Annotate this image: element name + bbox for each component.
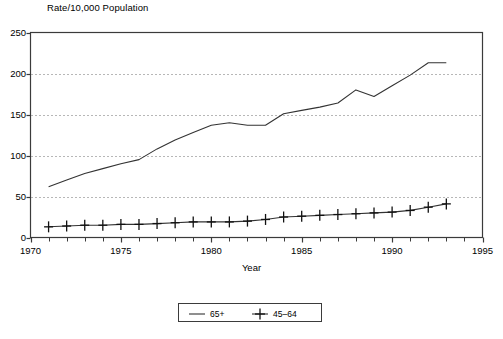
data-point-marker [225, 216, 234, 227]
data-point-marker [116, 219, 125, 230]
data-point-marker [424, 202, 433, 213]
data-point-marker [297, 211, 306, 222]
x-tick-label: 1985 [282, 245, 322, 256]
data-point-marker [315, 210, 324, 221]
data-point-marker [406, 205, 415, 216]
x-tick-label: 1975 [101, 245, 141, 256]
legend-line-plus-icon [251, 307, 269, 321]
data-point-marker [442, 198, 451, 209]
legend-label: 65+ [210, 309, 224, 319]
data-point-marker [333, 209, 342, 220]
data-point-marker [153, 218, 162, 229]
data-point-marker [207, 216, 216, 227]
data-point-marker [44, 221, 53, 232]
chart-container: Rate/10,000 Population 050100150200250 1… [0, 0, 503, 339]
plot-frame [31, 33, 483, 238]
data-point-marker [189, 216, 198, 227]
data-point-marker [80, 220, 89, 231]
chart-plot-area [0, 0, 503, 339]
legend-line-icon [188, 307, 206, 321]
data-point-marker [261, 214, 270, 225]
data-point-marker [279, 212, 288, 223]
data-point-marker [388, 207, 397, 218]
y-tick-label: 50 [0, 191, 26, 202]
y-tick-label: 200 [0, 68, 26, 79]
data-point-marker [243, 216, 252, 227]
data-point-marker [171, 217, 180, 228]
chart-legend: 65+ 45–64 [178, 303, 322, 322]
x-tick-label: 1980 [191, 245, 231, 256]
data-point-marker [351, 208, 360, 219]
x-tick-label: 1990 [372, 245, 412, 256]
y-tick-label: 0 [0, 232, 26, 243]
data-point-marker [370, 207, 379, 218]
legend-item-65-plus[interactable]: 65+ [188, 304, 224, 323]
x-tick-label: 1970 [11, 245, 51, 256]
series-line-0 [49, 63, 447, 187]
y-tick-label: 100 [0, 150, 26, 161]
legend-item-45-64[interactable]: 45–64 [251, 304, 297, 323]
x-tick-label: 1995 [463, 245, 503, 256]
y-tick-label: 250 [0, 27, 26, 38]
legend-label: 45–64 [273, 309, 297, 319]
data-series-layer [44, 63, 451, 233]
data-point-marker [62, 221, 71, 232]
gridlines [32, 75, 482, 198]
x-axis-title: Year [0, 262, 503, 273]
data-point-marker [98, 220, 107, 231]
y-tick-label: 150 [0, 109, 26, 120]
x-axis-ticks [32, 238, 484, 243]
data-point-marker [134, 219, 143, 230]
